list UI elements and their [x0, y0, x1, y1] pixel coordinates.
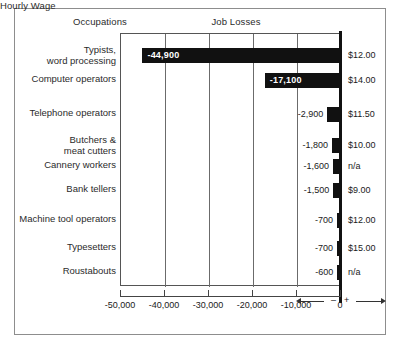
chart-figure: Occupations Job Losses Hourly Wage Typis…: [0, 0, 400, 347]
row-label-occupation: Roustabouts: [14, 265, 116, 276]
plus-rule: [356, 301, 381, 302]
hourly-wage-value: $11.50: [348, 108, 375, 121]
negative-direction-indicator: –: [296, 296, 338, 306]
hourly-wage-value: $10.00: [348, 139, 376, 152]
bar-value-label: -700: [273, 214, 333, 227]
row-label-occupation: Cannery workers: [14, 159, 116, 170]
bar-value-label: -1,500: [269, 184, 329, 197]
column-header-hourly-wage: Hourly Wage: [0, 0, 56, 11]
chart-row: Typists, word processing-44,900$12.00: [0, 44, 400, 68]
x-axis-tick: [208, 290, 209, 297]
bar: [337, 241, 341, 256]
bar-value-label: -17,100: [270, 73, 302, 88]
row-label-occupation: Typists, word processing: [14, 44, 116, 66]
chart-row: Telephone operators-2,900$11.50: [0, 106, 400, 130]
bar: [337, 213, 341, 228]
bar: [337, 265, 341, 280]
bar-value-label: -44,900: [147, 48, 179, 63]
hourly-wage-value: $14.00: [348, 74, 376, 87]
hourly-wage-value: $12.00: [348, 214, 376, 227]
x-axis-tick: [164, 290, 165, 297]
hourly-wage-value: $9.00: [348, 184, 371, 197]
bar-value-label: -600: [273, 266, 333, 279]
row-label-occupation: Bank tellers: [14, 183, 116, 194]
x-axis-tick: [252, 290, 253, 297]
row-label-occupation: Computer operators: [14, 73, 116, 84]
x-axis-tick: [340, 290, 341, 297]
column-header-occupations: Occupations: [40, 16, 160, 27]
bar: [332, 138, 340, 153]
arrow-right-icon: [381, 298, 386, 304]
minus-rule: [301, 301, 324, 302]
hourly-wage-value: $12.00: [348, 49, 376, 62]
chart-row: Computer operators-17,100$14.00: [0, 72, 400, 96]
bar: [333, 183, 340, 198]
bar-value-label: -1,800: [268, 139, 328, 152]
chart-row: Bank tellers-1,500$9.00: [0, 182, 400, 206]
hourly-wage-value: n/a: [348, 266, 361, 279]
column-header-job-losses: Job Losses: [176, 16, 296, 27]
bar-value-label: -2,900: [263, 108, 323, 121]
row-label-occupation: Machine tool operators: [14, 213, 116, 224]
chart-row: Cannery workers-1,600n/a: [0, 158, 400, 182]
hourly-wage-value: n/a: [348, 160, 361, 173]
bar-value-label: -1,600: [269, 160, 329, 173]
plus-sign-label: +: [344, 295, 349, 306]
hourly-wage-value: $15.00: [348, 242, 376, 255]
minus-sign-label: –: [331, 295, 336, 306]
row-label-occupation: Butchers & meat cutters: [14, 134, 116, 156]
chart-row: Machine tool operators-700$12.00: [0, 212, 400, 236]
row-label-occupation: Telephone operators: [14, 107, 116, 118]
x-axis-tick: [120, 290, 121, 297]
bar-value-label: -700: [273, 242, 333, 255]
chart-row: Roustabouts-600n/a: [0, 264, 400, 288]
chart-row: Butchers & meat cutters-1,800$10.00: [0, 134, 400, 158]
chart-row: Typesetters-700$15.00: [0, 240, 400, 264]
positive-direction-indicator: +: [344, 296, 386, 306]
bar: [327, 107, 340, 122]
bar: [333, 159, 340, 174]
row-label-occupation: Typesetters: [14, 241, 116, 252]
